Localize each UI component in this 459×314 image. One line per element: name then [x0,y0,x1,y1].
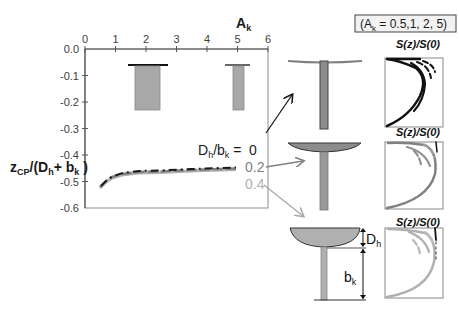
y-tick: -0.2 [60,96,79,108]
legend-value-0.4: 0.4 [245,176,265,192]
x-tick: 4 [204,33,210,45]
x-axis-title: Ak [236,15,252,33]
profile-title: S(z)/S(0) [396,216,440,228]
inset-pile-wide [128,65,168,110]
legend: Dh/bk = 0 0.2 0.4 [198,142,265,192]
profile-chart-dh04: S(z)/S(0) [385,216,443,298]
arrow-to-dh02 [266,161,303,167]
figure: Ak 0 1 2 3 4 5 6 0.0 -0.1 -0.2 -0.3 -0.4… [0,0,459,314]
main-chart: Ak 0 1 2 3 4 5 6 0.0 -0.1 -0.2 -0.3 -0.4… [10,15,271,214]
ak-values-box: (Ak = 0.5,1, 2, 5) [355,15,456,33]
x-tick: 1 [112,33,118,45]
y-tick: -0.5 [60,176,79,188]
dimension-dh: Dh [360,228,381,249]
legend-title: Dh/bk = [198,142,241,160]
x-tick: 3 [173,33,179,45]
y-tick: -0.3 [60,123,79,135]
x-tick: 6 [265,33,271,45]
y-axis-title: zCP/(Dh+ bk ) [10,159,88,177]
dimension-bk: bk [344,249,366,299]
y-tick: -0.6 [60,202,79,214]
pile-diagram-dh02 [288,143,361,210]
x-tick: 5 [234,33,240,45]
y-tick: 0.0 [64,43,79,55]
legend-value-0.2: 0.2 [245,159,265,175]
arrow-to-dh04 [264,185,303,216]
profile-chart-dh02: S(z)/S(0) [385,126,443,209]
pile-diagram-dh04: Dh bk [290,228,381,300]
x-tick-labels: 0 1 2 3 4 5 6 [82,33,271,45]
inset-pile-narrow [225,65,250,110]
svg-text:bk: bk [344,269,357,287]
x-tick: 2 [143,33,149,45]
profile-chart-dh0: S(z)/S(0) [385,38,443,127]
arrow-to-dh0 [266,95,292,133]
y-tick: -0.1 [60,70,79,82]
pile-diagram-dh0 [288,61,362,129]
series-lines [100,168,236,189]
x-tick: 0 [82,33,88,45]
svg-text:Dh: Dh [366,231,381,249]
legend-value-0: 0 [249,142,257,158]
y-tick-labels: 0.0 -0.1 -0.2 -0.3 -0.4 -0.5 -0.6 [60,43,79,214]
profile-title: S(z)/S(0) [396,38,440,50]
profile-title: S(z)/S(0) [396,126,440,138]
